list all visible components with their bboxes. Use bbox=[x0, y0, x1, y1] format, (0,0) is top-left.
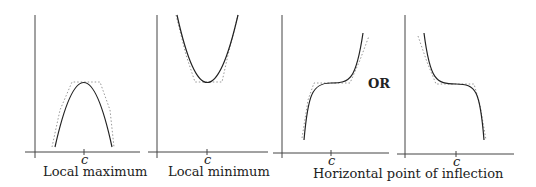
panel-inflection-increasing: c bbox=[273, 15, 389, 168]
or-connector: OR bbox=[368, 76, 390, 91]
critical-points-diagram: c Local maximum c Local minimum c OR c H… bbox=[0, 0, 536, 187]
curve-local-min bbox=[177, 15, 238, 83]
tangent-dotted bbox=[302, 36, 369, 138]
curve-local-max bbox=[55, 83, 112, 148]
panel-local-minimum: c Local minimum bbox=[148, 15, 270, 179]
tangent-dotted bbox=[418, 36, 486, 140]
label-local-maximum: Local maximum bbox=[43, 164, 147, 179]
label-horizontal-inflection: Horizontal point of inflection bbox=[313, 166, 504, 181]
tangent-dotted bbox=[52, 82, 114, 147]
label-local-minimum: Local minimum bbox=[168, 164, 270, 179]
panel-inflection-decreasing: c bbox=[397, 15, 514, 169]
panel-local-maximum: c Local maximum bbox=[25, 15, 147, 179]
